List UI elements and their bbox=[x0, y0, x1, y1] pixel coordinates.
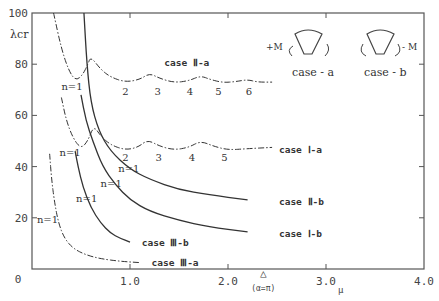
mode-label: 4 bbox=[189, 152, 195, 163]
mode-label: n=1 bbox=[101, 178, 122, 189]
case-b-label: case - b bbox=[364, 66, 407, 79]
mode-label: 3 bbox=[155, 86, 161, 97]
buckling-chart: 2040608010001.02.03.04.0△(α=π) case Ⅱ-an… bbox=[0, 0, 439, 301]
mode-label: 5 bbox=[215, 86, 221, 97]
moment-arrow-left-icon bbox=[361, 44, 366, 56]
curve-case-ii-b bbox=[84, 13, 248, 200]
mode-label: n=1 bbox=[118, 163, 139, 174]
mode-label: n=1 bbox=[61, 81, 82, 92]
moment-arrow-right-icon bbox=[395, 44, 400, 56]
moment-arrow-right-icon bbox=[325, 44, 329, 56]
inset-case-b: - M case - b bbox=[361, 30, 417, 79]
y-tick-label: 40 bbox=[15, 161, 28, 174]
x-tick-label: 3.0 bbox=[316, 275, 336, 288]
x-tick-label: 4.0 bbox=[414, 275, 434, 288]
curve-label: case Ⅲ-a bbox=[152, 257, 199, 268]
curve-label: case Ⅰ-b bbox=[279, 228, 322, 239]
alpha-pi-label: (α=π) bbox=[251, 284, 275, 293]
y-tick-label: 100 bbox=[8, 7, 28, 20]
mode-label: 4 bbox=[187, 86, 193, 97]
x-tick-label: 2.0 bbox=[218, 275, 238, 288]
x-tick-label: 1.0 bbox=[120, 275, 140, 288]
y-tick-label: 80 bbox=[15, 58, 28, 71]
sector-shape-icon bbox=[295, 30, 322, 54]
sector-shape-icon bbox=[367, 30, 394, 54]
y-tick-label: 20 bbox=[15, 212, 28, 225]
mode-label: n=1 bbox=[76, 193, 97, 204]
moment-label-minus: - M bbox=[402, 42, 417, 52]
case-a-label: case - a bbox=[292, 66, 335, 79]
mode-label: 5 bbox=[221, 152, 227, 163]
curve-label: case Ⅲ-b bbox=[142, 237, 189, 248]
y-axis-title: λcr bbox=[10, 28, 29, 41]
moment-arrow-left-icon bbox=[289, 46, 293, 56]
x-origin-label: 0 bbox=[15, 273, 22, 286]
labels: case Ⅱ-an=123456case Ⅰ-an=12345case Ⅱ-bn… bbox=[37, 57, 324, 268]
curve-label: case Ⅰ-a bbox=[279, 144, 322, 155]
curves bbox=[50, 13, 272, 263]
inset-case-a: +M case - a bbox=[266, 30, 335, 79]
curve-label: case Ⅱ-b bbox=[279, 196, 324, 207]
mode-label: 6 bbox=[246, 86, 252, 97]
plot-frame bbox=[32, 13, 424, 269]
triangle-marker-icon: △ bbox=[260, 267, 267, 280]
x-axis-title: μ bbox=[338, 285, 344, 295]
y-tick-label: 60 bbox=[15, 109, 28, 122]
mode-label: 3 bbox=[155, 152, 161, 163]
moment-label-plus: +M bbox=[266, 42, 283, 52]
mode-label: 2 bbox=[122, 86, 128, 97]
mode-label: n=1 bbox=[59, 147, 80, 158]
mode-label: n=1 bbox=[37, 214, 58, 225]
curve-label: case Ⅱ-a bbox=[164, 57, 209, 68]
